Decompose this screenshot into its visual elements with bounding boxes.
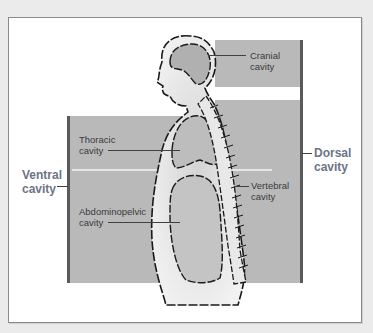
vertebral-leader-line — [234, 186, 249, 187]
dorsal-label-line1: Dorsal — [314, 146, 351, 160]
abdominopelvic-cavity-label: Abdominopelvic cavity — [79, 206, 146, 228]
thoracic-label-line2: cavity — [79, 145, 115, 156]
dorsal-leader-line — [302, 153, 312, 154]
abdominopelvic-label-line2: cavity — [79, 217, 146, 228]
vertebral-label-line1: Vertebral — [251, 180, 289, 191]
vertebral-label-line2: cavity — [251, 191, 289, 202]
abdominopelvic-cavity-shape — [170, 176, 222, 283]
ventral-label-line2: cavity — [22, 182, 62, 196]
dorsal-cavity-group-label: Dorsal cavity — [314, 146, 351, 174]
thoracic-label-line1: Thoracic — [79, 134, 115, 145]
cranial-label-line1: Cranial — [250, 50, 280, 61]
cranial-leader-line — [208, 55, 246, 56]
cranial-cavity-label: Cranial cavity — [250, 50, 280, 72]
ventral-label-line1: Ventral — [22, 168, 62, 182]
cranial-label-line2: cavity — [250, 61, 280, 72]
vertebral-cavity-label: Vertebral cavity — [251, 180, 289, 202]
ventral-cavity-group-label: Ventral cavity — [22, 168, 62, 196]
thoracic-leader-line — [108, 150, 180, 151]
dorsal-label-line2: cavity — [314, 160, 351, 174]
thoracic-cavity-label: Thoracic cavity — [79, 134, 115, 156]
abdominopelvic-label-line1: Abdominopelvic — [79, 206, 146, 217]
